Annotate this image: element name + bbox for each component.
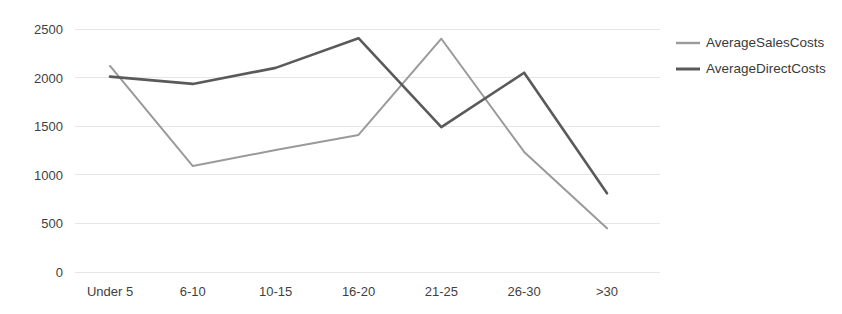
y-tick-label: 1000	[34, 168, 63, 183]
x-tick-label: 10-15	[259, 284, 292, 299]
y-tick-label: 2500	[34, 22, 63, 37]
x-tick-label: 21-25	[425, 284, 458, 299]
x-axis-tick-labels: Under 56-1010-1516-2021-2526-30>30	[87, 284, 618, 299]
chart-legend: AverageSalesCostsAverageDirectCosts	[676, 35, 826, 76]
x-tick-label: 16-20	[342, 284, 375, 299]
y-tick-label: 500	[41, 216, 63, 231]
gridlines	[75, 29, 660, 272]
series-line-AverageDirectCosts	[110, 38, 607, 193]
y-tick-label: 2000	[34, 71, 63, 86]
legend-label-AverageSalesCosts: AverageSalesCosts	[706, 35, 825, 50]
x-tick-label: 26-30	[508, 284, 541, 299]
data-series	[110, 38, 607, 228]
x-tick-label: >30	[596, 284, 618, 299]
x-tick-label: Under 5	[87, 284, 133, 299]
y-tick-label: 1500	[34, 119, 63, 134]
chart-canvas: 25002000150010005000 Under 56-1010-1516-…	[0, 0, 842, 314]
x-tick-label: 6-10	[180, 284, 206, 299]
y-axis-tick-labels: 25002000150010005000	[34, 22, 63, 280]
series-line-AverageSalesCosts	[110, 39, 607, 229]
y-tick-label: 0	[56, 265, 63, 280]
legend-label-AverageDirectCosts: AverageDirectCosts	[706, 61, 826, 76]
line-chart: 25002000150010005000 Under 56-1010-1516-…	[0, 0, 842, 314]
